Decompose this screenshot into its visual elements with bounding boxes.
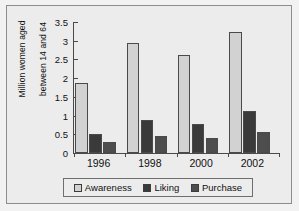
bar-awareness-2000 — [178, 55, 191, 153]
legend-label: Purchase — [202, 182, 242, 193]
x-tick-label-1996: 1996 — [87, 157, 110, 169]
chart-legend: AwarenessLikingPurchase — [63, 178, 253, 197]
x-tick-label-2000: 2000 — [189, 157, 212, 169]
x-tick-label-1998: 1998 — [138, 157, 161, 169]
bar-awareness-1996 — [75, 83, 88, 153]
plot-area: 00.511.522.533.5 — [73, 22, 279, 154]
x-tick-mark — [228, 153, 229, 157]
legend-swatch-icon — [191, 184, 199, 192]
y-tick-label: 0.5 — [55, 129, 68, 140]
y-tick-label: 1 — [63, 110, 68, 121]
y-tick-label: 3 — [63, 35, 68, 46]
y-tick-mark — [74, 78, 78, 79]
y-tick-label: 2 — [63, 73, 68, 84]
y-tick-label: 1.5 — [55, 91, 68, 102]
bar-liking-1998 — [141, 120, 154, 153]
legend-item-awareness[interactable]: Awareness — [74, 182, 132, 193]
x-tick-mark — [279, 153, 280, 157]
chart-screenshot: Million women aged between 14 and 64 00.… — [0, 0, 299, 211]
x-tick-mark — [177, 153, 178, 157]
y-tick-mark — [74, 41, 78, 42]
legend-label: Awareness — [85, 182, 132, 193]
x-tick-mark — [125, 153, 126, 157]
legend-swatch-icon — [143, 184, 151, 192]
y-axis-title-line2: between 14 and 64 — [38, 21, 49, 98]
legend-item-purchase[interactable]: Purchase — [191, 182, 242, 193]
bar-purchase-2002 — [257, 132, 270, 153]
bar-awareness-1998 — [127, 43, 140, 153]
y-tick-label: 0 — [63, 148, 68, 159]
x-tick-mark — [74, 153, 75, 157]
bar-awareness-2002 — [229, 32, 242, 153]
bar-liking-2000 — [192, 124, 205, 153]
bar-purchase-1996 — [103, 142, 116, 153]
bar-purchase-2000 — [206, 138, 219, 153]
y-axis-title: Million women aged between 14 and 64 — [16, 4, 50, 114]
x-tick-label-2002: 2002 — [241, 157, 264, 169]
y-tick-label: 3.5 — [55, 17, 68, 28]
bar-purchase-1998 — [155, 136, 168, 153]
legend-swatch-icon — [74, 184, 82, 192]
y-axis-title-line1: Million women aged — [17, 21, 28, 98]
bar-liking-2002 — [243, 111, 256, 153]
bar-chart: Million women aged between 14 and 64 00.… — [0, 0, 299, 211]
bar-liking-1996 — [89, 134, 102, 153]
legend-item-liking[interactable]: Liking — [143, 182, 179, 193]
y-tick-label: 2.5 — [55, 54, 68, 65]
legend-label: Liking — [154, 182, 179, 193]
y-tick-mark — [74, 59, 78, 60]
y-tick-mark — [74, 22, 78, 23]
